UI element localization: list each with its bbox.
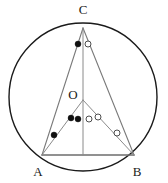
angle-marker-below-o-left-inner: [75, 116, 81, 122]
vertex-label-a: A: [33, 164, 43, 179]
angle-marker-at-c-left: [75, 41, 81, 47]
angle-marker-at-b: [114, 130, 120, 136]
geometry-diagram: CABO: [0, 0, 168, 183]
vertex-label-c: C: [79, 2, 88, 17]
vertex-label-b: B: [133, 164, 142, 179]
radius-o-to-b: [83, 100, 134, 155]
angle-marker-below-o-right-inner: [86, 116, 92, 122]
angle-markers-group: [51, 41, 120, 138]
angle-marker-below-o-right-outer: [95, 114, 101, 120]
vertex-labels-group: CABO: [33, 2, 141, 179]
angle-marker-at-c-right: [85, 41, 91, 47]
vertex-label-o: O: [68, 87, 77, 102]
figure-canvas: CABO: [0, 0, 168, 183]
angle-marker-below-o-left-outer: [68, 115, 74, 121]
radius-o-to-a: [42, 100, 83, 155]
side-cb: [83, 28, 134, 155]
angle-marker-at-a: [51, 132, 57, 138]
